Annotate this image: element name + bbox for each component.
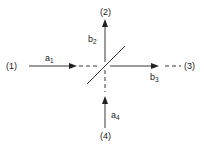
port-3-label: (3)	[184, 61, 195, 71]
a1-arrowhead	[69, 63, 77, 69]
b3-arrowhead	[151, 63, 159, 69]
beam-splitter-diagram: (1) (2) (3) (4) a1 b2 b3 a4	[0, 0, 204, 148]
port-1-label: (1)	[6, 61, 17, 71]
signal-a4-sub: 4	[116, 114, 120, 121]
signal-b2-label: b2	[88, 34, 97, 45]
port-2-label: (2)	[100, 7, 111, 17]
signal-a4-label: a4	[111, 110, 120, 121]
signal-a1-label: a1	[45, 53, 54, 64]
signal-b2-sub: 2	[93, 38, 97, 45]
port-4-label: (4)	[100, 131, 111, 141]
beam-splitter-mirror	[87, 46, 125, 84]
a4-arrowhead	[102, 96, 108, 104]
signal-b3-sub: 3	[155, 76, 159, 83]
b2-arrowhead	[102, 19, 108, 27]
signal-a1-sub: 1	[50, 57, 54, 64]
signal-b3-label: b3	[150, 72, 159, 83]
